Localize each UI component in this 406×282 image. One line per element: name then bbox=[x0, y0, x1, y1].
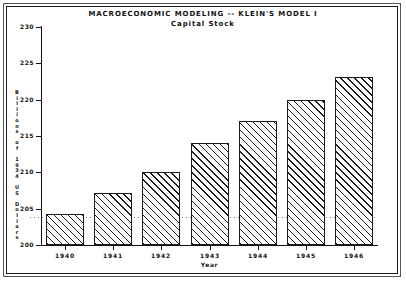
y-tick-label-wrap: 200 bbox=[10, 241, 34, 249]
y-axis-line bbox=[41, 26, 42, 246]
chart-title: MACROECONOMIC MODELING -- KLEIN'S MODEL … bbox=[0, 10, 406, 18]
y-tick-mark bbox=[36, 100, 41, 101]
y-tick-label: 225 bbox=[12, 59, 34, 66]
y-tick-label-wrap: 205 bbox=[10, 205, 34, 213]
y-tick-mark bbox=[36, 136, 41, 137]
y-tick-mark bbox=[36, 209, 41, 210]
chart-subtitle: Capital Stock bbox=[0, 20, 406, 28]
y-tick-label-wrap: 225 bbox=[10, 59, 34, 67]
y-tick-label: 215 bbox=[12, 132, 34, 139]
x-tick-mark bbox=[210, 245, 211, 250]
x-tick-label: 1944 bbox=[236, 252, 280, 259]
y-tick-label: 205 bbox=[12, 205, 34, 212]
chart-figure: MACROECONOMIC MODELING -- KLEIN'S MODEL … bbox=[0, 0, 406, 282]
bar bbox=[191, 143, 229, 245]
y-tick-mark bbox=[36, 63, 41, 64]
x-tick-mark bbox=[113, 245, 114, 250]
y-tick-label-wrap: 215 bbox=[10, 132, 34, 140]
y-tick-label-wrap: 210 bbox=[10, 168, 34, 176]
x-tick-label: 1943 bbox=[188, 252, 232, 259]
y-tick-label-wrap: 220 bbox=[10, 96, 34, 104]
bar bbox=[239, 121, 277, 245]
bar bbox=[94, 193, 132, 245]
bar bbox=[335, 77, 373, 245]
x-tick-label: 1945 bbox=[284, 252, 328, 259]
x-tick-mark bbox=[65, 245, 66, 250]
y-tick-label: 210 bbox=[12, 168, 34, 175]
y-tick-mark bbox=[36, 172, 41, 173]
bar bbox=[46, 214, 84, 245]
x-tick-mark bbox=[161, 245, 162, 250]
x-tick-label: 1946 bbox=[332, 252, 376, 259]
y-tick-label-wrap: 230 bbox=[10, 23, 34, 31]
y-tick-label: 230 bbox=[12, 23, 34, 30]
y-tick-label: 220 bbox=[12, 96, 34, 103]
x-axis-label: Year bbox=[41, 261, 378, 268]
x-tick-mark bbox=[306, 245, 307, 250]
y-tick-mark bbox=[36, 245, 41, 246]
bar bbox=[287, 100, 325, 245]
y-tick-label: 200 bbox=[12, 241, 34, 248]
x-tick-label: 1941 bbox=[91, 252, 135, 259]
x-tick-label: 1940 bbox=[43, 252, 87, 259]
x-tick-label: 1942 bbox=[139, 252, 183, 259]
y-axis-label: Billions of 1934 US Dollars bbox=[12, 90, 22, 241]
x-tick-mark bbox=[258, 245, 259, 250]
x-tick-mark bbox=[354, 245, 355, 250]
y-tick-mark bbox=[36, 27, 41, 28]
bar bbox=[142, 172, 180, 245]
